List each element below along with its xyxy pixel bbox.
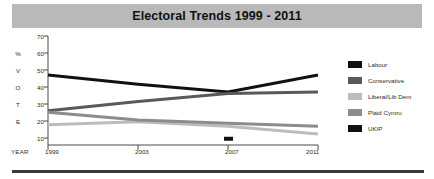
legend-item-label: Plaid Cymru xyxy=(368,109,402,116)
legend-item[interactable]: Conservative xyxy=(348,72,434,88)
xtick-label-2011: 2011 xyxy=(306,148,319,155)
legend-swatch-icon xyxy=(348,93,362,100)
legend-swatch-icon xyxy=(348,61,362,68)
page-title: Electoral Trends 1999 - 2011 xyxy=(132,9,302,23)
chart-title-banner: Electoral Trends 1999 - 2011 xyxy=(12,4,422,28)
xtick-label-2007: 2007 xyxy=(225,148,239,155)
legend-item-label: Liberal/Lib Dem xyxy=(368,93,411,100)
legend-item[interactable]: Liberal/Lib Dem xyxy=(348,88,434,104)
legend-swatch-icon xyxy=(348,77,362,84)
xaxis-title: YEAR xyxy=(11,148,29,155)
chart-legend: LabourConservativeLiberal/Lib DemPlaid C… xyxy=(348,56,434,136)
legend-item-label: UKIP xyxy=(368,125,382,132)
legend-item[interactable]: Plaid Cymru xyxy=(348,104,434,120)
xtick-label-2003: 2003 xyxy=(135,148,149,155)
series-line xyxy=(48,92,318,111)
xtick-label-1999: 1999 xyxy=(45,148,59,155)
legend-swatch-icon xyxy=(348,125,362,132)
legend-item-label: Conservative xyxy=(368,77,404,84)
legend-item-label: Labour xyxy=(368,61,387,68)
legend-item[interactable]: Labour xyxy=(348,56,434,72)
legend-swatch-icon xyxy=(348,109,362,116)
series-marker xyxy=(224,137,233,141)
footer-rule xyxy=(12,170,424,173)
series-group xyxy=(48,75,318,141)
legend-item[interactable]: UKIP xyxy=(348,120,434,136)
chart-page: Electoral Trends 1999 - 2011 % V O T E 7… xyxy=(0,0,434,179)
series-line xyxy=(48,75,318,92)
